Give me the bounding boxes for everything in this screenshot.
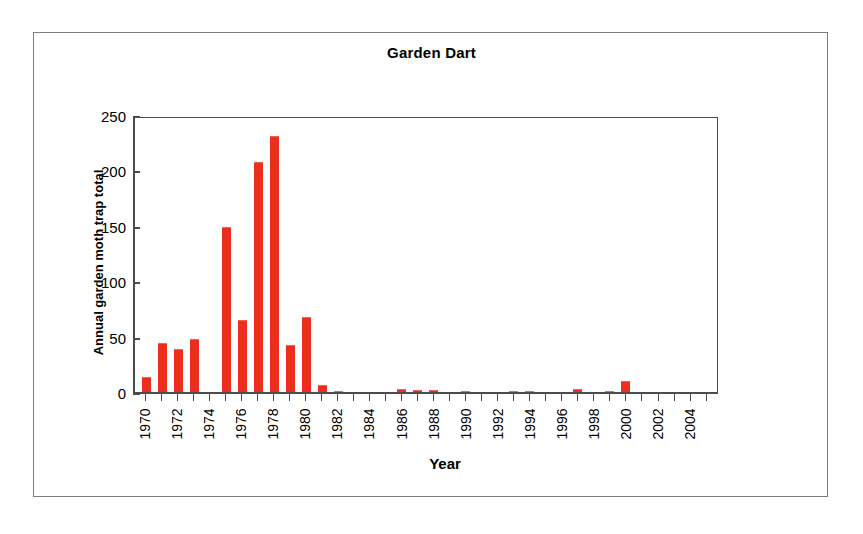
x-axis-tick-mark [193, 394, 194, 401]
x-axis-tick-mark [625, 394, 626, 401]
x-label-slot: 1990 [458, 402, 474, 450]
bar-slot [203, 118, 219, 392]
bar [605, 391, 614, 392]
x-axis-tick-label: 1988 [426, 408, 442, 439]
bar-series [135, 118, 717, 392]
bar-slot [697, 118, 713, 392]
x-label-slot: 1988 [426, 402, 442, 450]
x-label-slot: 1982 [329, 402, 345, 450]
bar-slot [235, 118, 251, 392]
x-axis-tick-label: 1990 [458, 408, 474, 439]
x-label-slot [313, 402, 329, 450]
x-tick-slot [233, 394, 249, 401]
x-axis-tick-label: 1986 [394, 408, 410, 439]
x-tick-slot [538, 394, 554, 401]
x-axis-tick-label: 2004 [682, 408, 698, 439]
x-label-slot [666, 402, 682, 450]
x-label-slot [345, 402, 361, 450]
x-axis-tick-mark [209, 394, 210, 401]
bar [270, 136, 279, 392]
bar-slot [362, 118, 378, 392]
bar [174, 349, 183, 392]
bar-slot [267, 118, 283, 392]
bar-slot [522, 118, 538, 392]
x-axis-tick-label: 1982 [329, 408, 345, 439]
x-axis-tick-mark [225, 394, 226, 401]
x-label-slot: 1996 [554, 402, 570, 450]
x-tick-slot [650, 394, 666, 401]
bar [621, 381, 630, 392]
x-axis-tick-mark [577, 394, 578, 401]
bar-slot [681, 118, 697, 392]
bar [318, 385, 327, 392]
x-tick-slot [313, 394, 329, 401]
bar-slot [410, 118, 426, 392]
x-axis-tick-mark [513, 394, 514, 401]
bar-slot [506, 118, 522, 392]
bar-slot [474, 118, 490, 392]
x-label-slot: 1998 [586, 402, 602, 450]
x-label-slot [602, 402, 618, 450]
x-tick-slot [394, 394, 410, 401]
x-axis-tick-mark [593, 394, 594, 401]
x-axis-tick-mark [481, 394, 482, 401]
x-axis-tick-mark [401, 394, 402, 401]
bar [254, 162, 263, 392]
x-label-slot [698, 402, 714, 450]
x-label-slot [377, 402, 393, 450]
x-tick-slot [217, 394, 233, 401]
y-axis-tick-label: 200 [84, 164, 126, 179]
x-tick-slot [153, 394, 169, 401]
x-label-slot [442, 402, 458, 450]
x-axis-tick-mark [658, 394, 659, 401]
x-tick-slot [249, 394, 265, 401]
x-tick-slot [281, 394, 297, 401]
x-axis-tick-mark [321, 394, 322, 401]
bar-slot [458, 118, 474, 392]
x-label-slot [570, 402, 586, 450]
bar [397, 389, 406, 392]
bar [222, 227, 231, 392]
x-label-slot [153, 402, 169, 450]
y-axis-tick-label: 0 [84, 386, 126, 401]
x-tick-slot [698, 394, 714, 401]
x-axis-tick-mark [449, 394, 450, 401]
x-axis-tick-label: 2002 [650, 408, 666, 439]
x-label-slot [634, 402, 650, 450]
bar-slot [617, 118, 633, 392]
plot-area [133, 117, 718, 394]
x-label-slot [474, 402, 490, 450]
bar [461, 391, 470, 392]
bar-slot [553, 118, 569, 392]
x-label-slot: 1992 [490, 402, 506, 450]
bar [429, 390, 438, 392]
bar-slot [442, 118, 458, 392]
bar-slot [219, 118, 235, 392]
x-axis-tick-mark [385, 394, 386, 401]
x-tick-slot [345, 394, 361, 401]
x-axis-tick-mark [369, 394, 370, 401]
x-tick-slot [522, 394, 538, 401]
x-axis-tick-mark [674, 394, 675, 401]
x-label-slot: 1994 [522, 402, 538, 450]
x-axis-tick-mark [273, 394, 274, 401]
bar [158, 343, 167, 392]
x-axis-tick-mark [305, 394, 306, 401]
x-tick-slot [201, 394, 217, 401]
y-axis-tick-label: 250 [84, 109, 126, 124]
bar-slot [426, 118, 442, 392]
x-axis-tick-mark [337, 394, 338, 401]
y-axis-tick-mark [133, 393, 140, 395]
x-axis-tick-mark [289, 394, 290, 401]
bar-slot [394, 118, 410, 392]
bar-slot [171, 118, 187, 392]
x-axis-tick-label: 1976 [233, 408, 249, 439]
x-tick-slot [361, 394, 377, 401]
x-tick-slot [297, 394, 313, 401]
x-label-slot: 1984 [361, 402, 377, 450]
y-axis-tick-mark [133, 227, 140, 229]
x-tick-slot [137, 394, 153, 401]
x-label-slot: 2004 [682, 402, 698, 450]
x-axis-tick-label: 1996 [554, 408, 570, 439]
x-axis-tick-mark [706, 394, 707, 401]
